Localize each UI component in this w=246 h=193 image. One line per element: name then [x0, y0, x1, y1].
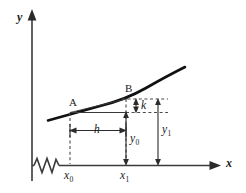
- x0-tick-label: x0: [64, 170, 73, 182]
- x-axis-break-zigzag-icon: [34, 159, 59, 173]
- y1-dimension-label: y1: [162, 124, 171, 136]
- x1-tick-label-subscript: 1: [125, 175, 129, 184]
- y-axis-label: y: [17, 11, 22, 23]
- x1-tick-label: x1: [120, 170, 129, 182]
- secant-line-ab: [70, 99, 128, 113]
- x-axis-label: x: [226, 157, 232, 169]
- x0-tick-label-subscript: 0: [69, 175, 73, 184]
- y1-dimension-label-subscript: 1: [167, 129, 171, 138]
- y0-dimension-label-subscript: 0: [135, 138, 139, 147]
- k-dimension-label: k: [141, 100, 146, 112]
- point-label-a: A: [69, 97, 77, 108]
- y-axis-arrowhead: [28, 9, 37, 21]
- x-axis-arrowhead: [210, 161, 222, 170]
- point-label-b: B: [125, 83, 132, 94]
- diagram-svg: [0, 0, 246, 193]
- h-dimension-label: h: [94, 124, 100, 136]
- y0-dimension-label: y0: [130, 133, 139, 145]
- figure-canvas: y x A B h k y0 y1 x0 x1: [0, 0, 246, 193]
